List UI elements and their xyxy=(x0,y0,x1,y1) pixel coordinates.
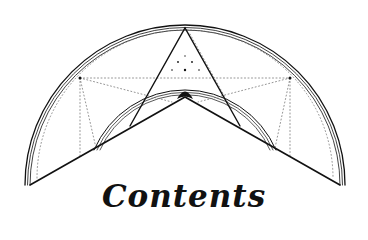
page-title: Contents xyxy=(0,178,368,214)
triangle xyxy=(130,28,240,126)
outer-arc-2 xyxy=(28,28,343,186)
outer-arc-3 xyxy=(30,30,340,185)
chevron xyxy=(30,97,340,185)
inner-arc-2 xyxy=(97,92,273,150)
inner-arc-3 xyxy=(100,95,270,150)
